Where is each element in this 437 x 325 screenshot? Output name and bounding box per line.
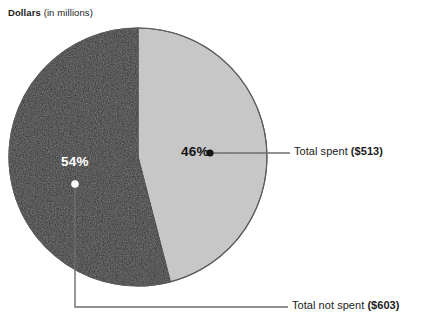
slice-percent-total-not-spent: 54% bbox=[61, 154, 89, 169]
callout-label-total-not-spent-value: ($603) bbox=[367, 299, 399, 311]
callout-label-total-spent-value: ($513) bbox=[351, 145, 383, 157]
callout-label-total-spent-text: Total spent bbox=[294, 145, 351, 157]
callout-label-total-not-spent: Total not spent ($603) bbox=[292, 299, 400, 311]
callout-label-total-spent: Total spent ($513) bbox=[294, 145, 383, 157]
pie-chart-figure: Dollars (in millions) bbox=[0, 0, 437, 325]
callout-label-total-not-spent-text: Total not spent bbox=[292, 299, 367, 311]
leader-dot-total-not-spent bbox=[71, 180, 79, 188]
slice-percent-total-spent: 46% bbox=[181, 144, 209, 159]
